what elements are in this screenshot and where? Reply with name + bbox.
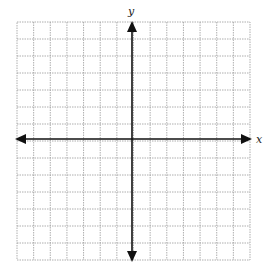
y-axis-label: y bbox=[127, 5, 135, 18]
grid-lines bbox=[17, 22, 250, 260]
arrow-up-icon bbox=[127, 21, 137, 32]
x-axis-label: x bbox=[256, 133, 263, 146]
coordinate-plane: x y bbox=[0, 0, 273, 280]
